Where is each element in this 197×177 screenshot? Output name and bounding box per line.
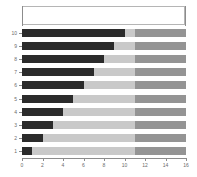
bar-segment-series-3: [135, 68, 186, 76]
bar-segment-series-1: [22, 42, 114, 50]
x-tick-label: 4: [56, 162, 70, 169]
y-tick-label: 5: [2, 96, 17, 102]
x-tick-mark: [186, 158, 187, 161]
x-tick-mark: [43, 158, 44, 161]
bar-segment-series-2: [63, 108, 135, 116]
bar-segment-series-1: [22, 147, 32, 155]
bar-segment-series-3: [135, 134, 186, 142]
bar-segment-series-1: [22, 68, 94, 76]
x-tick-label: 8: [97, 162, 111, 169]
y-tick-label: 8: [2, 56, 17, 62]
bar-segment-series-2: [125, 29, 135, 37]
x-tick-label: 6: [77, 162, 91, 169]
x-tick-label: 2: [36, 162, 50, 169]
bar-segment-series-3: [135, 29, 186, 37]
bar-segment-series-2: [84, 81, 135, 89]
bar-row: [22, 147, 186, 155]
plot-area: [22, 26, 186, 158]
bar-segment-series-1: [22, 29, 125, 37]
y-tick-mark: [19, 138, 22, 139]
bar-row: [22, 108, 186, 116]
x-tick-label: 12: [138, 162, 152, 169]
bar-row: [22, 55, 186, 63]
x-tick-label: 16: [179, 162, 193, 169]
x-tick-label: 10: [118, 162, 132, 169]
bar-segment-series-3: [135, 42, 186, 50]
x-tick-label: 0: [15, 162, 29, 169]
y-tick-label: 9: [2, 43, 17, 49]
bar-segment-series-1: [22, 81, 84, 89]
bar-row: [22, 134, 186, 142]
y-tick-label: 7: [2, 69, 17, 75]
y-tick-label: 1: [2, 148, 17, 154]
bar-segment-series-3: [135, 81, 186, 89]
bar-segment-series-1: [22, 134, 43, 142]
bar-row: [22, 95, 186, 103]
y-tick-mark: [19, 99, 22, 100]
bar-segment-series-1: [22, 55, 104, 63]
bar-segment-series-2: [73, 95, 135, 103]
y-tick-label: 6: [2, 82, 17, 88]
y-tick-label: 10: [2, 30, 17, 36]
x-tick-mark: [166, 158, 167, 161]
x-tick-mark: [145, 158, 146, 161]
bar-segment-series-1: [22, 121, 53, 129]
y-tick-mark: [19, 125, 22, 126]
y-tick-mark: [19, 112, 22, 113]
x-tick-mark: [22, 158, 23, 161]
x-tick-mark: [125, 158, 126, 161]
legend-box: [22, 6, 185, 25]
bar-segment-series-1: [22, 95, 73, 103]
bar-segment-series-3: [135, 55, 186, 63]
bar-row: [22, 81, 186, 89]
bar-segment-series-3: [135, 147, 186, 155]
bar-segment-series-1: [22, 108, 63, 116]
bar-segment-series-2: [53, 121, 135, 129]
y-tick-label: 4: [2, 109, 17, 115]
bar-segment-series-2: [43, 134, 135, 142]
y-tick-mark: [19, 85, 22, 86]
bar-row: [22, 121, 186, 129]
bar-segment-series-2: [114, 42, 135, 50]
y-tick-mark: [19, 59, 22, 60]
x-tick-label: 14: [159, 162, 173, 169]
y-tick-mark: [19, 33, 22, 34]
y-tick-label: 2: [2, 135, 17, 141]
bar-row: [22, 42, 186, 50]
bar-segment-series-2: [32, 147, 135, 155]
bar-segment-series-3: [135, 121, 186, 129]
bar-row: [22, 68, 186, 76]
chart-figure: 0246810121416 10987654321: [0, 0, 197, 177]
bar-segment-series-3: [135, 95, 186, 103]
x-tick-mark: [104, 158, 105, 161]
x-tick-mark: [63, 158, 64, 161]
y-tick-mark: [19, 151, 22, 152]
bar-segment-series-2: [94, 68, 135, 76]
y-tick-label: 3: [2, 122, 17, 128]
y-tick-mark: [19, 46, 22, 47]
bar-segment-series-3: [135, 108, 186, 116]
bar-segment-series-2: [104, 55, 135, 63]
x-tick-mark: [84, 158, 85, 161]
bar-row: [22, 29, 186, 37]
y-tick-mark: [19, 72, 22, 73]
